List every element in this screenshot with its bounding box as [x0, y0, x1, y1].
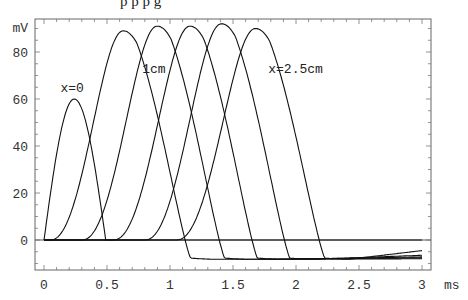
curve-x-0.5cm: [44, 31, 422, 259]
action-potential-chart: p p p g 00.511.522.53020406080mVms x=01c…: [0, 0, 468, 300]
x-tick-label: 0.5: [95, 278, 118, 293]
x-tick-label: 2: [292, 278, 300, 293]
x-tick-label: 0: [40, 278, 48, 293]
curve-annotation: x=0: [60, 81, 83, 96]
x-axis-label: ms: [444, 278, 460, 293]
y-tick-label: 40: [12, 140, 28, 155]
y-axis-label: mV: [12, 21, 28, 36]
y-tick-label: 60: [12, 93, 28, 108]
clipped-caption-fragment: p p p g: [120, 0, 162, 9]
plot-frame: [35, 19, 431, 270]
curve-annotation: 1cm: [142, 62, 166, 77]
axis-ticks: [35, 19, 431, 270]
x-tick-label: 3: [418, 278, 426, 293]
curve-annotation: x=2.5cm: [268, 62, 323, 77]
x-tick-label: 1: [166, 278, 174, 293]
curve-x-1cm: [44, 26, 422, 259]
x-tick-label: 1.5: [221, 278, 244, 293]
curve-x-1.5cm: [44, 26, 422, 259]
x-tick-label: 2.5: [347, 278, 370, 293]
axis-labels: 00.511.522.53020406080mVms: [12, 21, 459, 293]
curve-x-2.5cm: [44, 29, 422, 260]
y-tick-label: 80: [12, 46, 28, 61]
curve-x-2cm: [44, 24, 422, 259]
y-tick-label: 0: [20, 234, 28, 249]
voltage-curves: [44, 24, 422, 259]
y-tick-label: 20: [12, 187, 28, 202]
